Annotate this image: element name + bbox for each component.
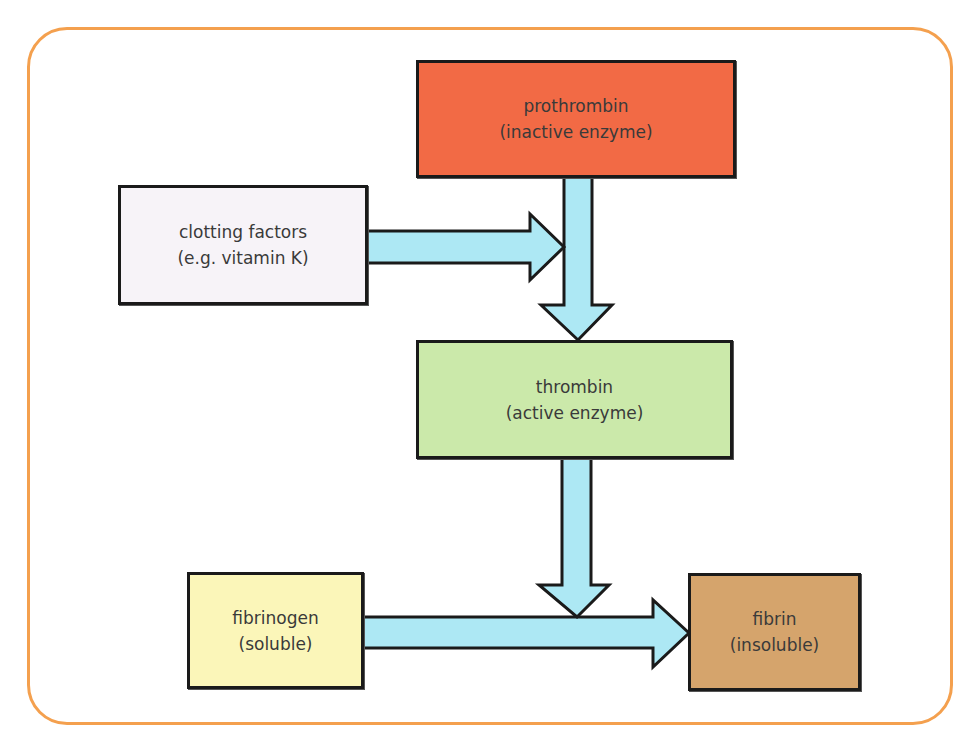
node-thrombin-label: thrombin <box>536 374 613 400</box>
node-prothrombin-sublabel: (inactive enzyme) <box>499 119 652 145</box>
node-thrombin: thrombin (active enzyme) <box>416 340 733 459</box>
node-fibrinogen: fibrinogen (soluble) <box>187 572 364 689</box>
node-clotting-factors-sublabel: (e.g. vitamin K) <box>177 245 308 271</box>
node-prothrombin: prothrombin (inactive enzyme) <box>416 60 736 178</box>
node-fibrin-sublabel: (insoluble) <box>730 632 820 658</box>
node-clotting-factors-label: clotting factors <box>179 219 307 245</box>
node-clotting-factors: clotting factors (e.g. vitamin K) <box>118 185 368 305</box>
node-fibrin-label: fibrin <box>753 606 797 632</box>
arrow-clotting-factors <box>367 214 564 280</box>
node-fibrinogen-label: fibrinogen <box>232 605 318 631</box>
arrow-thrombin-to-conversion <box>539 458 609 617</box>
node-fibrinogen-sublabel: (soluble) <box>239 631 313 657</box>
arrow-fibrinogen-to-fibrin <box>363 600 689 667</box>
node-fibrin: fibrin (insoluble) <box>688 573 861 691</box>
node-prothrombin-label: prothrombin <box>523 93 628 119</box>
node-thrombin-sublabel: (active enzyme) <box>506 400 644 426</box>
